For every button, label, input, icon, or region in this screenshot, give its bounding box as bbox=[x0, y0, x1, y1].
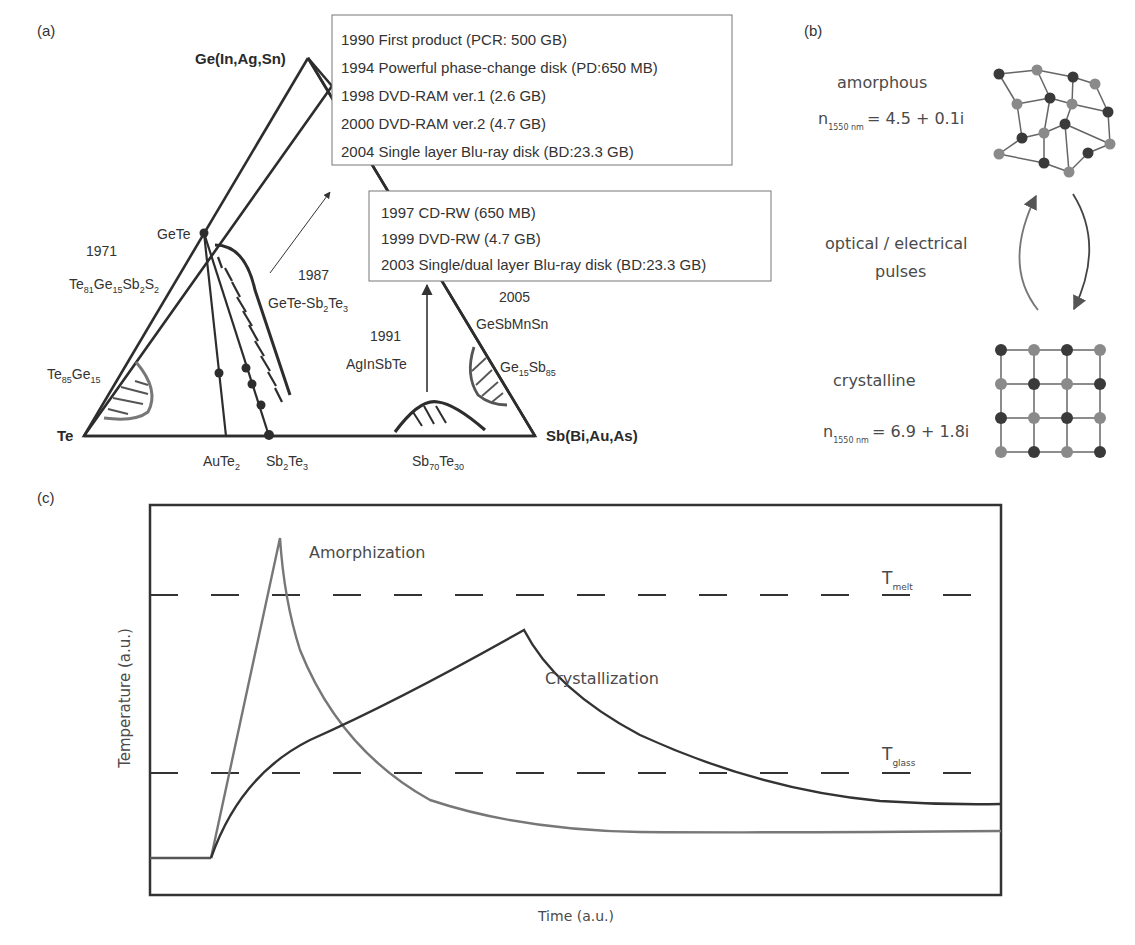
crystalline-atoms bbox=[995, 344, 1106, 458]
sb70te30-label: Sb70Te30 bbox=[412, 453, 464, 472]
crystallization-label: Crystallization bbox=[545, 669, 659, 688]
timeline-entry: 1994 Powerful phase-change disk (PD:650 … bbox=[341, 59, 658, 76]
aginsbte-label: AgInSbTe bbox=[346, 356, 407, 372]
crystalline-refractive-index: n1550 nm= 6.9 + 1.8i bbox=[823, 422, 969, 445]
crystallize-arrow-icon bbox=[1019, 196, 1038, 310]
aute2-label: AuTe2 bbox=[203, 453, 240, 472]
timeline-entry: 1999 DVD-RW (4.7 GB) bbox=[381, 230, 541, 247]
year-1991: 1991 bbox=[370, 328, 401, 344]
timeline-entry: 1990 First product (PCR: 500 GB) bbox=[341, 31, 567, 48]
dvd-ram-timeline-box: 1990 First product (PCR: 500 GB) 1994 Po… bbox=[332, 15, 732, 165]
year-1987: 1987 bbox=[298, 267, 329, 283]
vertex-left-label: Te bbox=[57, 427, 73, 444]
vertex-right-label: Sb(Bi,Au,As) bbox=[546, 427, 638, 444]
arrow-to-dvd-ram-box bbox=[270, 192, 330, 273]
sb70te30-region bbox=[395, 402, 485, 432]
panel-c-label: (c) bbox=[37, 489, 55, 506]
gesbmnsn-label: GeSbMnSn bbox=[476, 316, 548, 332]
year-2005: 2005 bbox=[499, 289, 530, 305]
amorphous-label: amorphous bbox=[837, 73, 927, 92]
panel-b-label: (b) bbox=[804, 22, 822, 39]
timeline-entry: 2003 Single/dual layer Blu-ray disk (BD:… bbox=[381, 256, 706, 273]
amorphize-arrow-icon bbox=[1073, 194, 1089, 309]
panel-c: (c) Tmelt Tglass Amorphization Crystalli… bbox=[37, 489, 1001, 924]
vertex-top-label: Ge(In,Ag,Sn) bbox=[195, 50, 286, 67]
plot-frame bbox=[150, 505, 1001, 895]
timeline-entry: 2000 DVD-RAM ver.2 (4.7 GB) bbox=[341, 115, 546, 132]
panel-b: (b) amorphous n1550 nm= 4.5 + 0.1i bbox=[804, 22, 1116, 458]
tmelt-label: Tmelt bbox=[881, 568, 913, 592]
sb2te3-label: Sb2Te3 bbox=[266, 453, 308, 472]
amorphous-refractive-index: n1550 nm= 4.5 + 0.1i bbox=[818, 109, 964, 132]
tglass-label: Tglass bbox=[881, 744, 916, 768]
amorphization-label: Amorphization bbox=[309, 543, 426, 562]
crystalline-structure bbox=[1001, 350, 1100, 452]
ge15sb85-region bbox=[470, 347, 507, 405]
gete-label: GeTe bbox=[157, 226, 191, 242]
timeline-entry: 1997 CD-RW (650 MB) bbox=[381, 204, 536, 221]
rw-timeline-box: 1997 CD-RW (650 MB) 1999 DVD-RW (4.7 GB)… bbox=[369, 191, 771, 281]
timeline-entry: 1998 DVD-RAM ver.1 (2.6 GB) bbox=[341, 87, 546, 104]
te81ge15sb2s2-label: Te81Ge15Sb2S2 bbox=[69, 276, 159, 295]
panel-a-label: (a) bbox=[37, 22, 55, 39]
pulses-label-line1: optical / electrical bbox=[825, 234, 968, 253]
te85ge15-label: Te85Ge15 bbox=[47, 366, 101, 385]
amorphous-atoms bbox=[994, 65, 1116, 178]
figure-canvas: (a) Ge(In,Ag,Sn) Te Sb(Bi,Au,As) GeTe bbox=[0, 0, 1135, 945]
gete-aute2-tieline bbox=[204, 233, 226, 436]
timeline-entry: 2004 Single layer Blu-ray disk (BD:23.3 … bbox=[341, 143, 634, 160]
year-1971: 1971 bbox=[86, 243, 117, 259]
sb2te3-point bbox=[264, 430, 274, 440]
gete-sb2te3-region bbox=[215, 245, 290, 395]
x-axis-label: Time (a.u.) bbox=[537, 908, 614, 924]
panel-a: (a) Ge(In,Ag,Sn) Te Sb(Bi,Au,As) GeTe bbox=[37, 15, 771, 472]
gete-sb2te3-label: GeTe-Sb2Te3 bbox=[268, 295, 348, 314]
y-axis-label: Temperature (a.u.) bbox=[116, 628, 134, 769]
pulses-label-line2: pulses bbox=[875, 262, 926, 281]
ge15sb85-label: Ge15Sb85 bbox=[500, 359, 556, 378]
crystalline-label: crystalline bbox=[833, 371, 916, 390]
gete-point bbox=[200, 229, 209, 238]
